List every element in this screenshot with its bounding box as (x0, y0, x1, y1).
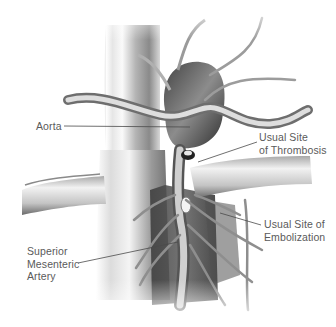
label-aorta-text: Aorta (36, 120, 62, 133)
label-sma-line1: Superior (27, 245, 79, 258)
label-aorta: Aorta (36, 120, 62, 133)
label-embolization-line1: Usual Site of (264, 218, 325, 231)
label-thrombosis: Usual Site of Thrombosis (259, 131, 327, 156)
label-embolization: Usual Site of Embolization (264, 218, 325, 243)
label-thrombosis-line1: Usual Site (259, 131, 327, 144)
right-branch-vessel (190, 156, 312, 198)
label-sma-line3: Artery (27, 270, 79, 283)
label-sma-line2: Mesenteric (27, 258, 79, 271)
label-superior-mesenteric-artery: Superior Mesenteric Artery (27, 245, 79, 283)
left-branch-vessel (22, 174, 106, 215)
anatomical-illustration: Aorta Usual Site of Thrombosis Usual Sit… (0, 0, 336, 327)
label-embolization-line2: Embolization (264, 231, 325, 244)
label-thrombosis-line2: of Thrombosis (259, 144, 327, 157)
